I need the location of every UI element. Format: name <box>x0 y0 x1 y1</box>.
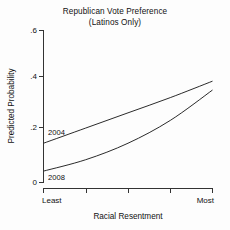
y-axis-title: Predicted Probability <box>7 68 16 144</box>
series-label-2004: 2004 <box>48 128 65 137</box>
y-tick-label-0: 0 <box>33 178 38 187</box>
chart-figure: Republican Vote Preference (Latinos Only… <box>0 0 230 230</box>
x-axis-title: Racial Resentment <box>93 212 163 221</box>
y-tick-label-0.6: .6 <box>30 26 37 35</box>
chart-plot-area: .6 .4 .2 0 Least Most Racial Resentment … <box>0 0 230 230</box>
y-tick-label-0.2: .2 <box>30 123 37 132</box>
x-axis-high-label: Most <box>197 196 215 205</box>
series-line-2004 <box>44 81 213 143</box>
y-tick-label-0.4: .4 <box>30 72 37 81</box>
x-axis-low-label: Least <box>42 196 62 205</box>
series-label-2008: 2008 <box>48 173 65 182</box>
series-line-2008 <box>44 90 213 171</box>
